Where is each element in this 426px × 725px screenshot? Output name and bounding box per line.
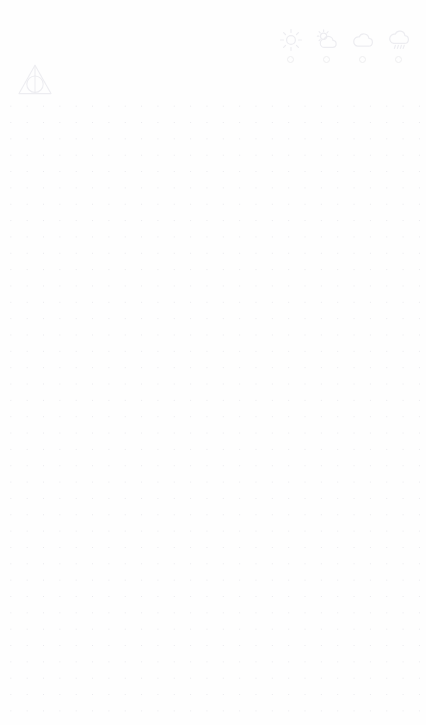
page-header: ° ° xyxy=(0,0,426,96)
weather-item-cloudy[interactable]: ° xyxy=(349,28,376,63)
temperature-value: ° xyxy=(359,56,366,63)
temperature-value: ° xyxy=(395,56,402,63)
weather-item-sunny[interactable]: ° xyxy=(277,28,304,63)
temperature-value: ° xyxy=(323,56,330,63)
weather-forecast-strip: ° ° xyxy=(277,28,412,63)
dot-grid-canvas[interactable] xyxy=(0,92,426,725)
cloud-icon xyxy=(351,28,375,52)
page-root: ° ° xyxy=(0,0,426,725)
weather-item-rain[interactable]: ° xyxy=(385,28,412,63)
weather-item-partly-cloudy[interactable]: ° xyxy=(313,28,340,63)
sun-icon xyxy=(279,28,303,52)
temperature-value: ° xyxy=(287,56,294,63)
cloud-rain-icon xyxy=(387,28,411,52)
sun-behind-cloud-icon xyxy=(315,28,339,52)
